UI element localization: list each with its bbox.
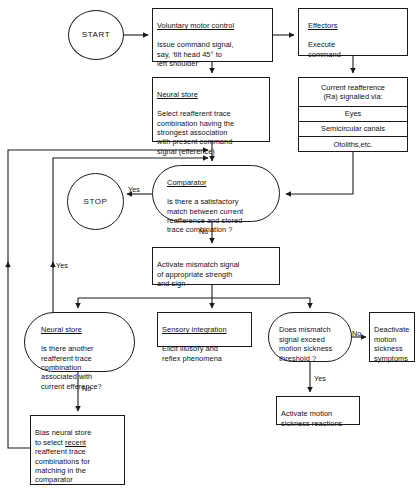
activate-reactions-node[interactable]: Activate motion sickness reactions	[276, 396, 360, 425]
neural-store-another-node[interactable]: Neural store Is there another reafferent…	[24, 312, 135, 372]
neural-store-select-body: Select reafferent trace combination havi…	[157, 109, 265, 156]
flowchart-canvas: START Voluntary motor control Issue comm…	[0, 0, 419, 491]
bias-neural-store-body: Bias neural store to select recent reaff…	[35, 428, 120, 484]
effectors-header: Effectors	[303, 21, 403, 30]
edge-label-neural-store-no: No	[82, 385, 91, 393]
voluntary-motor-control-node[interactable]: Voluntary motor control Issue command si…	[152, 8, 273, 62]
edge-label-threshold-no: No	[352, 330, 361, 338]
activate-mismatch-body: Activate mismatch signal of appropriate …	[157, 260, 275, 288]
bias-neural-store-body-post: reafferent trace combinations for matchi…	[35, 447, 90, 484]
voluntary-motor-control-body: Issue command signal, say, 'tilt head 45…	[157, 40, 268, 68]
reafference-row-eyes[interactable]: Eyes	[299, 107, 407, 122]
sensory-integration-header: Sensory integration	[162, 325, 247, 334]
effectors-node[interactable]: Effectors Execute command	[298, 8, 408, 56]
comparator-header: Comparator	[167, 178, 265, 187]
sensory-integration-node[interactable]: Sensory integration Elicit illusory and …	[157, 312, 252, 347]
reafference-row-otoliths[interactable]: Otoliths,etc.	[299, 137, 407, 152]
edge-label-threshold-yes: Yes	[314, 375, 326, 383]
deactivate-symptoms-node[interactable]: Deactivate motion sickness symptoms	[369, 312, 415, 362]
neural-store-another-header: Neural store	[41, 325, 118, 334]
neural-store-select-header: Neural store	[157, 90, 265, 99]
stop-node[interactable]: STOP	[67, 173, 124, 230]
comparator-node[interactable]: Comparator Is there a satisfactory match…	[152, 165, 280, 222]
activate-reactions-body: Activate motion sickness reactions	[281, 409, 355, 428]
voluntary-motor-control-header: Voluntary motor control	[157, 21, 268, 30]
bias-neural-store-node[interactable]: Bias neural store to select recent reaff…	[30, 415, 125, 485]
bias-neural-store-emphasis: recent	[65, 438, 86, 447]
reafference-row-semicircular-canals[interactable]: Semicircular canals	[299, 122, 407, 137]
edge-reafference-to-comparator	[286, 152, 353, 194]
edge-label-comparator-no: No	[199, 228, 208, 236]
sensory-integration-body: Elicit illusory and reflex phenomena	[162, 344, 247, 363]
comparator-body: Is there a satisfactory match between cu…	[167, 197, 265, 235]
edge-label-neural-store-yes: Yes	[56, 262, 68, 270]
neural-store-select-node[interactable]: Neural store Select reafferent trace com…	[152, 77, 270, 142]
start-label: START	[82, 30, 110, 39]
mismatch-threshold-node[interactable]: Does mismatch signal exceed motion sickn…	[268, 312, 352, 362]
effectors-body: Execute command	[303, 40, 403, 59]
stop-label: STOP	[83, 197, 107, 206]
activate-mismatch-node[interactable]: Activate mismatch signal of appropriate …	[152, 247, 280, 285]
mismatch-threshold-body: Does mismatch signal exceed motion sickn…	[279, 325, 341, 363]
edge-label-comparator-yes: Yes	[128, 186, 140, 194]
reafference-stack: Current reafference (Ra) signalled via: …	[298, 77, 408, 152]
neural-store-another-body: Is there another reafferent trace combin…	[41, 344, 118, 391]
start-node[interactable]: START	[68, 10, 124, 60]
deactivate-symptoms-body: Deactivate motion sickness symptoms	[374, 325, 410, 363]
reafference-header: Current reafference (Ra) signalled via:	[299, 78, 407, 107]
